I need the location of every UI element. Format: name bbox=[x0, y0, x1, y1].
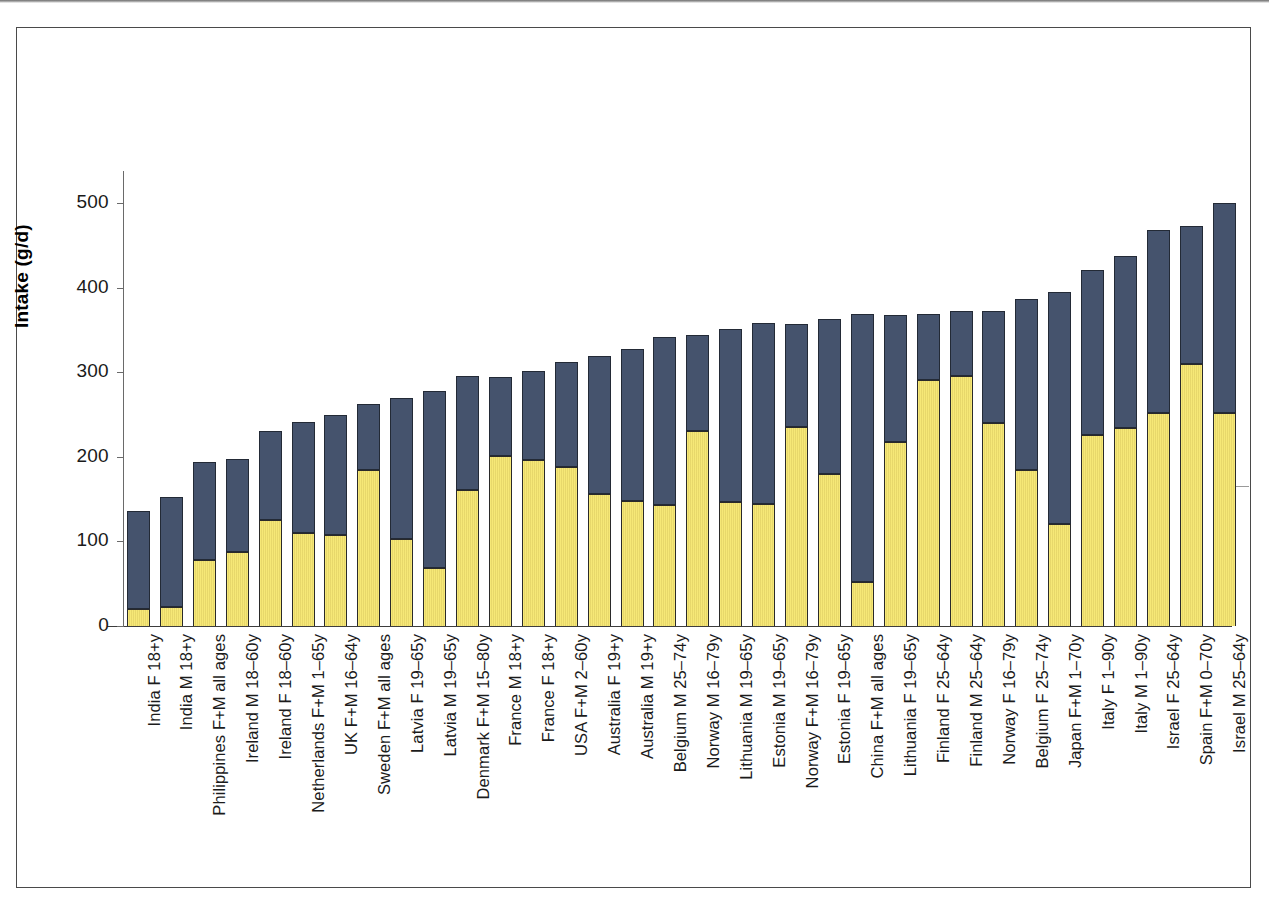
stacked-bar bbox=[357, 404, 380, 626]
bar-segment-upper bbox=[1048, 292, 1071, 525]
stacked-bar bbox=[588, 356, 611, 626]
bar-segment-upper bbox=[555, 362, 578, 467]
y-tick-label: 500 bbox=[49, 191, 109, 213]
stacked-bar bbox=[950, 311, 973, 626]
stacked-bar bbox=[226, 459, 249, 626]
scan-artifact-line bbox=[0, 0, 1269, 3]
bar-segment-upper bbox=[522, 371, 545, 461]
bar-segment-lower bbox=[982, 423, 1005, 626]
bar-segment-lower bbox=[226, 552, 249, 626]
bar-segment-upper bbox=[193, 462, 216, 560]
right-edge-tick bbox=[1235, 486, 1249, 487]
bar-segment-upper bbox=[1114, 256, 1137, 428]
bar-segment-upper bbox=[884, 315, 907, 442]
stacked-bar bbox=[456, 376, 479, 626]
x-axis-label: Latvia F 19–65y bbox=[408, 634, 427, 753]
x-axis-label: Spain F+M 0–70y bbox=[1197, 634, 1216, 765]
stacked-bar bbox=[259, 431, 282, 626]
bar-segment-lower bbox=[127, 609, 150, 626]
bar-segment-upper bbox=[950, 311, 973, 376]
stacked-bar bbox=[160, 497, 183, 626]
y-tick-mark bbox=[117, 457, 124, 458]
bar-segment-lower bbox=[555, 467, 578, 626]
y-tick-label: 100 bbox=[49, 529, 109, 551]
stacked-bar bbox=[489, 377, 512, 626]
stacked-bar bbox=[785, 324, 808, 626]
bar-segment-upper bbox=[160, 497, 183, 608]
stacked-bar bbox=[982, 311, 1005, 626]
bar-segment-upper bbox=[818, 319, 841, 474]
bar-segment-lower bbox=[917, 380, 940, 626]
bar-segment-lower bbox=[1015, 470, 1038, 627]
bar-segment-upper bbox=[851, 314, 874, 582]
y-tick-label: 200 bbox=[49, 445, 109, 467]
bar-segment-lower bbox=[686, 431, 709, 626]
x-axis-label: Italy M 1–90y bbox=[1132, 634, 1151, 733]
bar-segment-lower bbox=[621, 501, 644, 626]
bar-segment-lower bbox=[160, 607, 183, 626]
y-tick-mark bbox=[117, 203, 124, 204]
bar-segment-lower bbox=[851, 582, 874, 626]
y-tick-label: 300 bbox=[49, 360, 109, 382]
x-axis-label: Japan F+M 1–70y bbox=[1066, 634, 1085, 768]
bar-segment-upper bbox=[653, 337, 676, 505]
x-axis-label: India F 18+y bbox=[145, 634, 164, 726]
x-axis-label: Netherlands F+M 1–65y bbox=[309, 634, 328, 813]
x-axis-label: Philippines F+M all ages bbox=[210, 634, 229, 816]
plot-area bbox=[124, 176, 1220, 626]
bar-segment-lower bbox=[785, 427, 808, 626]
stacked-bar bbox=[555, 362, 578, 626]
bar-segment-upper bbox=[226, 459, 249, 552]
x-axis-label: India M 18+y bbox=[177, 634, 196, 730]
stacked-bar bbox=[1048, 292, 1071, 626]
stacked-bar bbox=[653, 337, 676, 626]
x-axis-label: Australia F 19+y bbox=[605, 634, 624, 755]
bar-segment-lower bbox=[292, 533, 315, 626]
bar-segment-lower bbox=[1180, 364, 1203, 626]
stacked-bar bbox=[423, 391, 446, 626]
x-axis-label: Norway F+M 16–79y bbox=[803, 634, 822, 788]
stacked-bar bbox=[917, 314, 940, 626]
bar-segment-upper bbox=[390, 398, 413, 539]
bar-segment-lower bbox=[324, 535, 347, 626]
bar-segment-upper bbox=[1213, 203, 1236, 413]
stacked-bar bbox=[1213, 203, 1236, 626]
y-tick-label: 0 bbox=[49, 614, 109, 636]
bar-segment-upper bbox=[324, 415, 347, 535]
bar-segment-upper bbox=[785, 324, 808, 427]
stacked-bar bbox=[193, 462, 216, 626]
x-axis-label: Sweden F+M all ages bbox=[375, 634, 394, 795]
bar-segment-lower bbox=[423, 568, 446, 626]
x-axis-label: Denmark F+M 15–80y bbox=[474, 634, 493, 800]
x-axis-label: Latvia M 19–65y bbox=[441, 634, 460, 757]
stacked-bar bbox=[851, 314, 874, 626]
bar-segment-lower bbox=[456, 490, 479, 626]
x-axis-label: USA F+M 2–60y bbox=[572, 634, 591, 756]
stacked-bar bbox=[390, 398, 413, 626]
bar-segment-lower bbox=[588, 494, 611, 626]
bar-segment-upper bbox=[1015, 299, 1038, 469]
bar-segment-upper bbox=[588, 356, 611, 494]
stacked-bar bbox=[884, 315, 907, 626]
y-tick-mark bbox=[117, 372, 124, 373]
x-axis-label: France M 18+y bbox=[506, 634, 525, 746]
bar-segment-upper bbox=[621, 349, 644, 501]
x-axis-label: Belgium F 25–74y bbox=[1033, 634, 1052, 769]
bar-segment-lower bbox=[950, 376, 973, 626]
y-tick-mark bbox=[117, 626, 124, 627]
bar-segment-lower bbox=[1213, 413, 1236, 626]
bar-segment-upper bbox=[1180, 226, 1203, 364]
stacked-bar bbox=[1114, 256, 1137, 626]
y-axis-title: Intake (g/d) bbox=[11, 224, 33, 328]
bar-segment-upper bbox=[456, 376, 479, 490]
bar-segment-upper bbox=[127, 511, 150, 609]
bar-segment-upper bbox=[917, 314, 940, 380]
bar-segment-lower bbox=[193, 560, 216, 626]
x-axis-label: UK F+M 16–64y bbox=[342, 634, 361, 755]
bar-segment-upper bbox=[357, 404, 380, 470]
x-axis-label: France F 18+y bbox=[539, 634, 558, 742]
bar-segment-lower bbox=[1114, 428, 1137, 626]
bar-segment-upper bbox=[489, 377, 512, 456]
x-axis-label: Belgium M 25–74y bbox=[671, 634, 690, 772]
stacked-bar bbox=[1180, 226, 1203, 626]
